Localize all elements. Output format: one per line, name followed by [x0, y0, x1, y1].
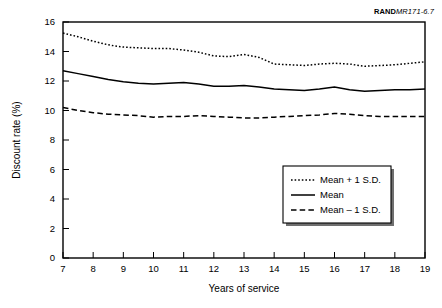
y-tick-label: 4	[50, 193, 55, 204]
y-tick-label: 14	[44, 46, 55, 57]
x-tick-label: 11	[179, 263, 189, 274]
legend-label-2: Mean	[320, 189, 344, 200]
x-tick-label: 14	[269, 263, 280, 274]
x-tick-label: 12	[209, 263, 220, 274]
legend-label-1: Mean + 1 S.D.	[320, 174, 381, 185]
x-axis-title: Years of service	[209, 283, 280, 294]
y-axis-tick-labels: 0246810121416	[44, 16, 55, 263]
y-tick-label: 6	[50, 164, 55, 175]
figure-id-suffix: MR171-6.7	[396, 7, 434, 16]
x-tick-label: 16	[329, 263, 340, 274]
x-tick-label: 15	[299, 263, 310, 274]
y-axis-title: Discount rate (%)	[11, 101, 22, 178]
x-tick-label: 18	[390, 263, 401, 274]
y-tick-label: 2	[50, 223, 55, 234]
x-tick-label: 13	[239, 263, 250, 274]
figure-id-prefix: RAND	[374, 7, 396, 16]
x-tick-label: 9	[121, 263, 126, 274]
figure-container: RANDMR171-6.7 0246810121416 789101112131…	[0, 0, 442, 308]
x-tick-label: 17	[359, 263, 370, 274]
y-tick-label: 10	[44, 105, 55, 116]
y-tick-label: 12	[44, 75, 55, 86]
x-tick-label: 8	[91, 263, 96, 274]
x-axis-tick-labels: 78910111213141516171819	[60, 263, 430, 274]
figure-id-label: RANDMR171-6.7	[374, 7, 434, 16]
y-tick-label: 8	[50, 134, 55, 145]
x-tick-label: 7	[60, 263, 65, 274]
line-chart: 0246810121416 78910111213141516171819 Di…	[0, 0, 442, 308]
y-tick-label: 0	[50, 252, 55, 263]
x-tick-label: 19	[420, 263, 431, 274]
x-tick-label: 10	[148, 263, 159, 274]
legend-label-3: Mean – 1 S.D.	[320, 204, 381, 215]
y-tick-label: 16	[44, 16, 55, 27]
legend[interactable]: Mean + 1 S.D.MeanMean – 1 S.D.	[283, 166, 394, 226]
